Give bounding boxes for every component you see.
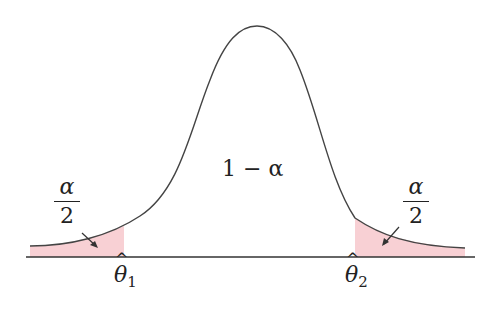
right-fraction-denominator: 2: [401, 205, 431, 227]
theta-hat-2-label: ^θ2: [345, 262, 368, 291]
distribution-plot: [0, 0, 501, 310]
left-fraction-numerator: α: [52, 176, 82, 198]
theta-hat-1-label: ^θ1: [114, 262, 137, 291]
center-label: 1 − α: [222, 156, 283, 181]
hat-accent: ^: [115, 250, 128, 269]
right-fraction-bar: [403, 201, 429, 202]
density-curve: [30, 26, 465, 248]
left-fraction-denominator: 2: [52, 205, 82, 227]
hat-accent: ^: [346, 250, 359, 269]
right-fraction-numerator: α: [401, 176, 431, 198]
left-fraction-bar: [54, 201, 80, 202]
right-tail-fraction: α 2: [401, 176, 431, 227]
left-tail-fraction: α 2: [52, 176, 82, 227]
